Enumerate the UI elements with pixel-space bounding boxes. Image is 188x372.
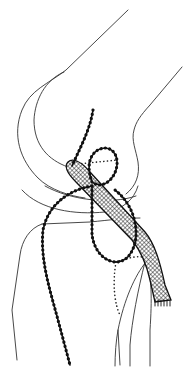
suture-loop — [42, 110, 136, 365]
knee-diagram: Lateral line drawing of a knee joint sho… — [0, 0, 188, 372]
femur — [18, 10, 182, 198]
graft — [66, 160, 171, 306]
fibula — [130, 262, 145, 366]
